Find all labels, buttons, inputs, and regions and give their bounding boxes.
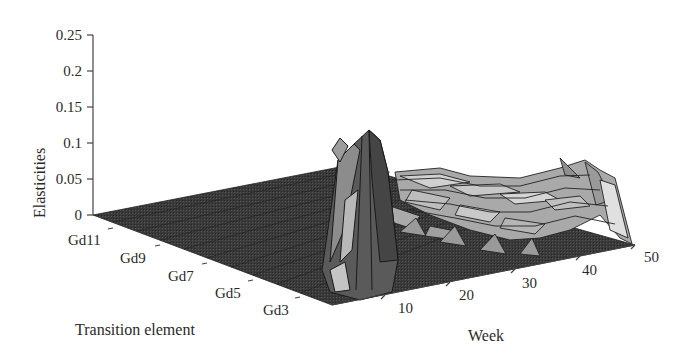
z-tick-label: 0.25 bbox=[22, 28, 82, 43]
x-tick-label: 20 bbox=[459, 288, 474, 303]
x-tick-label: 30 bbox=[522, 276, 537, 291]
x-tick-label: 50 bbox=[644, 250, 659, 265]
z-tick-label: 0.2 bbox=[22, 64, 82, 79]
surface-chart bbox=[0, 0, 694, 361]
surface-peak bbox=[322, 130, 398, 300]
z-axis-title: Elasticities bbox=[32, 148, 48, 218]
x-tick-label: 40 bbox=[582, 263, 597, 278]
y-tick-label: Gd5 bbox=[215, 286, 241, 301]
y-axis-title: Transition element bbox=[75, 322, 195, 338]
y-tick-label: Gd3 bbox=[263, 303, 289, 318]
x-axis-title: Week bbox=[468, 328, 504, 344]
z-tick-label: 0.15 bbox=[22, 100, 82, 115]
y-tick-label: Gd9 bbox=[120, 251, 146, 266]
z-axis bbox=[87, 35, 93, 215]
x-tick-label: 10 bbox=[398, 301, 413, 316]
y-tick-label: Gd7 bbox=[168, 269, 194, 284]
y-tick-label: Gd11 bbox=[68, 233, 101, 248]
